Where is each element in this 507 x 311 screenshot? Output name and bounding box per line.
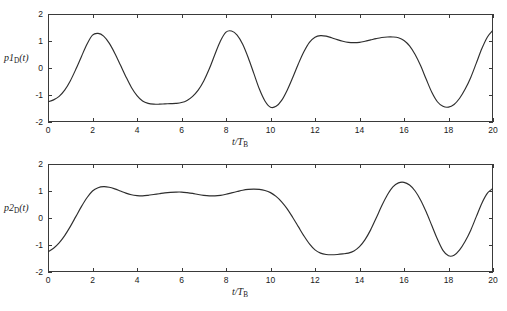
x-tick-mark-top xyxy=(493,164,494,168)
x-tick-mark-top xyxy=(226,14,227,18)
x-tick-mark-top xyxy=(493,14,494,18)
x-tick-label: 12 xyxy=(310,275,319,285)
x-tick-mark-top xyxy=(360,164,361,168)
x-tick-label: 4 xyxy=(135,125,140,135)
x-tick-mark-top xyxy=(137,14,138,18)
y-tick-label: -2 xyxy=(35,267,43,277)
x-axis-label-main: t/T xyxy=(232,286,243,297)
x-tick-label: 16 xyxy=(399,125,408,135)
x-tick-label: 14 xyxy=(355,275,364,285)
y-tick-mark-right xyxy=(489,68,493,69)
y-tick-mark xyxy=(48,41,52,42)
x-tick-mark xyxy=(226,118,227,122)
x-tick-mark xyxy=(182,118,183,122)
curve-path-p1d xyxy=(48,30,493,107)
y-tick-mark xyxy=(48,272,52,273)
y-tick-label: 0 xyxy=(38,213,43,223)
y-tick-label: -1 xyxy=(35,90,43,100)
x-axis-label-p1d: t/TB xyxy=(232,136,248,149)
y-axis-label-main: p1 xyxy=(4,52,14,63)
x-tick-mark xyxy=(93,268,94,272)
x-tick-label: 6 xyxy=(179,125,184,135)
y-axis-label-main: p2 xyxy=(4,202,14,213)
x-tick-label: 0 xyxy=(46,275,51,285)
x-tick-mark-top xyxy=(315,14,316,18)
y-tick-label: 2 xyxy=(38,9,43,19)
y-axis-label-argument: (t) xyxy=(19,52,28,63)
x-tick-mark-top xyxy=(404,14,405,18)
y-tick-label: 0 xyxy=(38,63,43,73)
y-tick-mark xyxy=(48,245,52,246)
y-tick-mark xyxy=(48,218,52,219)
x-tick-mark-top xyxy=(93,14,94,18)
figure-container: p1D(t) t/TB 02468101214161820-2-1012 p2D… xyxy=(0,0,507,311)
y-tick-mark-right xyxy=(489,218,493,219)
y-tick-mark xyxy=(48,191,52,192)
x-tick-label: 2 xyxy=(90,125,95,135)
x-tick-label: 14 xyxy=(355,125,364,135)
x-tick-label: 20 xyxy=(488,125,497,135)
x-tick-mark xyxy=(226,268,227,272)
x-tick-mark xyxy=(315,268,316,272)
y-tick-mark xyxy=(48,122,52,123)
x-axis-label-p2d: t/TB xyxy=(232,286,248,299)
x-tick-mark-top xyxy=(360,14,361,18)
y-tick-mark-right xyxy=(489,164,493,165)
y-tick-mark xyxy=(48,164,52,165)
x-axis-label-main: t/T xyxy=(232,136,243,147)
curve-path-p2d xyxy=(48,182,493,256)
x-tick-mark xyxy=(493,118,494,122)
x-tick-mark xyxy=(360,268,361,272)
x-tick-mark-top xyxy=(93,164,94,168)
x-tick-mark-top xyxy=(226,164,227,168)
y-tick-mark-right xyxy=(489,14,493,15)
x-tick-label: 18 xyxy=(444,275,453,285)
y-tick-label: 1 xyxy=(38,36,43,46)
axes-area-p1d: 02468101214161820-2-1012 xyxy=(48,14,493,122)
x-tick-mark-top xyxy=(449,164,450,168)
x-tick-label: 0 xyxy=(46,125,51,135)
y-tick-mark xyxy=(48,68,52,69)
x-tick-label: 4 xyxy=(135,275,140,285)
x-tick-mark xyxy=(449,268,450,272)
x-tick-mark xyxy=(271,268,272,272)
y-tick-mark xyxy=(48,95,52,96)
y-axis-label-argument: (t) xyxy=(19,202,28,213)
y-axis-label-p1d: p1D(t) xyxy=(4,52,29,65)
x-tick-label: 18 xyxy=(444,125,453,135)
curve-p2d xyxy=(48,164,493,272)
plot-panel-p2d: p2D(t) t/TB 02468101214161820-2-1012 xyxy=(0,150,507,311)
y-tick-mark xyxy=(48,14,52,15)
y-tick-mark-right xyxy=(489,41,493,42)
x-tick-mark-top xyxy=(315,164,316,168)
x-tick-label: 12 xyxy=(310,125,319,135)
x-tick-label: 8 xyxy=(224,125,229,135)
x-tick-mark xyxy=(493,268,494,272)
x-tick-label: 10 xyxy=(266,275,275,285)
y-tick-label: -2 xyxy=(35,117,43,127)
x-tick-label: 2 xyxy=(90,275,95,285)
x-tick-mark xyxy=(182,268,183,272)
y-axis-label-p2d: p2D(t) xyxy=(4,202,29,215)
axes-area-p2d: 02468101214161820-2-1012 xyxy=(48,164,493,272)
x-axis-label-subscript: B xyxy=(243,291,248,299)
x-tick-mark xyxy=(404,268,405,272)
x-tick-mark xyxy=(271,118,272,122)
y-tick-label: 2 xyxy=(38,159,43,169)
x-tick-mark-top xyxy=(271,14,272,18)
x-tick-label: 16 xyxy=(399,275,408,285)
x-tick-label: 6 xyxy=(179,275,184,285)
x-tick-mark-top xyxy=(404,164,405,168)
x-tick-mark-top xyxy=(182,164,183,168)
curve-p1d xyxy=(48,14,493,122)
x-tick-mark-top xyxy=(137,164,138,168)
x-tick-mark xyxy=(360,118,361,122)
x-tick-mark xyxy=(404,118,405,122)
y-tick-mark-right xyxy=(489,272,493,273)
x-tick-mark xyxy=(449,118,450,122)
y-tick-label: -1 xyxy=(35,240,43,250)
x-tick-mark xyxy=(315,118,316,122)
y-tick-label: 1 xyxy=(38,186,43,196)
y-tick-mark-right xyxy=(489,245,493,246)
x-tick-mark xyxy=(93,118,94,122)
